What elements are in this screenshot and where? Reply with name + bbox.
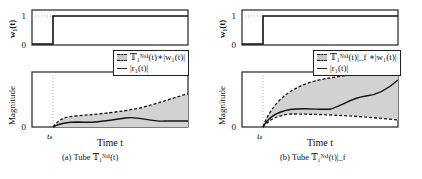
legend-label: 𝕋₁ᴺˢ¹(t)|_f ∗|w₁(t)| [330, 52, 397, 63]
panel-b-top-ytick-1: 1 [232, 11, 237, 21]
panel-a-bottom-ytick: 0 [22, 122, 27, 132]
panel-a-caption: (a) Tube 𝕋₁ᴺˢ¹(t) [62, 152, 118, 162]
panel-a-bottom-axes: 0 Magnitude tₛ Time t [7, 72, 188, 148]
panel-b-legend: 𝕋₁ᴺˢ¹(t)|_f ∗|w₁(t)| |r₁(t)| [313, 50, 401, 76]
panel-b-xlabel: Time t [307, 137, 333, 148]
panel-b-bottom-axes: 0 Magnitude tₛ Time t [217, 70, 398, 148]
panel-a-top-ylabel: w₁(t) [7, 20, 17, 38]
panel-b-xtick: tₛ [257, 131, 263, 141]
panel-b-caption: (b) Tube 𝕋₁ᴺˢ¹(t)|_f [280, 152, 346, 162]
panel-b-bottom-ytick: 0 [232, 122, 237, 132]
legend-item-residual: |r₁(t)| [317, 63, 397, 74]
panel-b-top-ylabel: w₁(t) [217, 20, 227, 38]
solid-line-swatch-icon [317, 68, 327, 69]
panel-b-top-ytick-0: 0 [232, 40, 237, 50]
legend-item-tube: 𝕋₁ᴺˢ¹(t)∗|w₁(t)| [117, 52, 185, 63]
panel-a-xtick: tₛ [47, 131, 53, 141]
panel-a-bottom-ylabel: Magnitude [7, 86, 17, 125]
caption-symbol: 𝕋₁ᴺˢ¹(t)|_f [311, 152, 345, 162]
caption-prefix: (b) Tube [280, 152, 311, 162]
caption-symbol: 𝕋₁ᴺˢ¹(t) [93, 152, 119, 162]
legend-label: |r₁(t)| [330, 63, 348, 74]
legend-item-tube: 𝕋₁ᴺˢ¹(t)|_f ∗|w₁(t)| [317, 52, 397, 63]
caption-prefix: (a) Tube [62, 152, 93, 162]
legend-item-residual: |r₁(t)| [117, 63, 185, 74]
legend-label: 𝕋₁ᴺˢ¹(t)∗|w₁(t)| [130, 52, 185, 63]
tube-fill-swatch-icon [117, 54, 127, 61]
panel-a-top-axes: 1 0 w₁(t) [7, 10, 188, 50]
solid-line-swatch-icon [117, 68, 127, 69]
panel-a-legend: 𝕋₁ᴺˢ¹(t)∗|w₁(t)| |r₁(t)| [113, 50, 189, 76]
panel-a-xlabel: Time t [97, 137, 123, 148]
legend-label: |r₁(t)| [130, 63, 148, 74]
panel-a-top-ytick-0: 0 [22, 40, 27, 50]
panel-a-top-ytick-1: 1 [22, 11, 27, 21]
panel-b-bottom-ylabel: Magnitude [217, 86, 227, 125]
tube-fill-swatch-icon [317, 54, 327, 61]
panel-b-top-axes: 1 0 w₁(t) [217, 10, 398, 50]
